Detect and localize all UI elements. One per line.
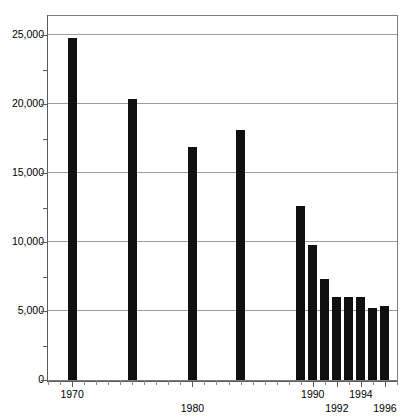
x-tick-1974 bbox=[120, 381, 121, 385]
x-tick-1994 bbox=[361, 381, 362, 387]
x-tick-1973 bbox=[108, 381, 109, 385]
x-axis-label-1990: 1990 bbox=[293, 389, 333, 400]
x-tick-1993 bbox=[349, 381, 350, 385]
x-tick-1995 bbox=[373, 381, 374, 385]
x-tick-1981 bbox=[204, 381, 205, 385]
x-tick-1984 bbox=[241, 381, 242, 385]
x-tick-1997 bbox=[397, 381, 398, 385]
x-tick-1985 bbox=[253, 381, 254, 385]
y-tick-22500 bbox=[43, 70, 47, 71]
y-tick-25000 bbox=[41, 35, 47, 36]
y-tick-7500 bbox=[43, 277, 47, 278]
y-tick-20000 bbox=[41, 104, 47, 105]
x-axis-labels: 197019801990199219941996 bbox=[0, 0, 405, 417]
y-tick-2500 bbox=[43, 346, 47, 347]
x-tick-1978 bbox=[168, 381, 169, 385]
x-tick-1977 bbox=[156, 381, 157, 385]
x-tick-1988 bbox=[289, 381, 290, 385]
x-tick-1992 bbox=[337, 381, 338, 387]
y-tick-12500 bbox=[43, 208, 47, 209]
x-tick-1979 bbox=[180, 381, 181, 385]
x-axis-label-1994: 1994 bbox=[341, 389, 381, 400]
y-tick-10000 bbox=[41, 242, 47, 243]
bar-chart-figure: 25,00020,00015,00010,0005,0000 197019801… bbox=[0, 0, 405, 417]
x-axis-label-1996: 1996 bbox=[365, 403, 405, 414]
x-tick-1991 bbox=[325, 381, 326, 385]
x-tick-1996 bbox=[385, 381, 386, 387]
x-tick-1968 bbox=[48, 381, 49, 385]
x-tick-1969 bbox=[60, 381, 61, 385]
y-tick-0 bbox=[41, 380, 47, 381]
x-tick-1983 bbox=[229, 381, 230, 385]
x-axis-label-1992: 1992 bbox=[317, 403, 357, 414]
x-tick-1970 bbox=[72, 381, 73, 387]
x-axis-label-1980: 1980 bbox=[172, 403, 212, 414]
y-tick-17500 bbox=[43, 139, 47, 140]
x-tick-1990 bbox=[313, 381, 314, 387]
x-tick-1980 bbox=[192, 381, 193, 387]
x-tick-1971 bbox=[84, 381, 85, 385]
x-tick-1972 bbox=[96, 381, 97, 385]
x-tick-1986 bbox=[265, 381, 266, 385]
x-tick-1989 bbox=[301, 381, 302, 385]
x-axis-label-1970: 1970 bbox=[52, 389, 92, 400]
y-tick-5000 bbox=[41, 311, 47, 312]
x-tick-1987 bbox=[277, 381, 278, 385]
x-tick-1976 bbox=[144, 381, 145, 385]
y-tick-15000 bbox=[41, 173, 47, 174]
x-tick-1982 bbox=[216, 381, 217, 385]
x-tick-1975 bbox=[132, 381, 133, 385]
